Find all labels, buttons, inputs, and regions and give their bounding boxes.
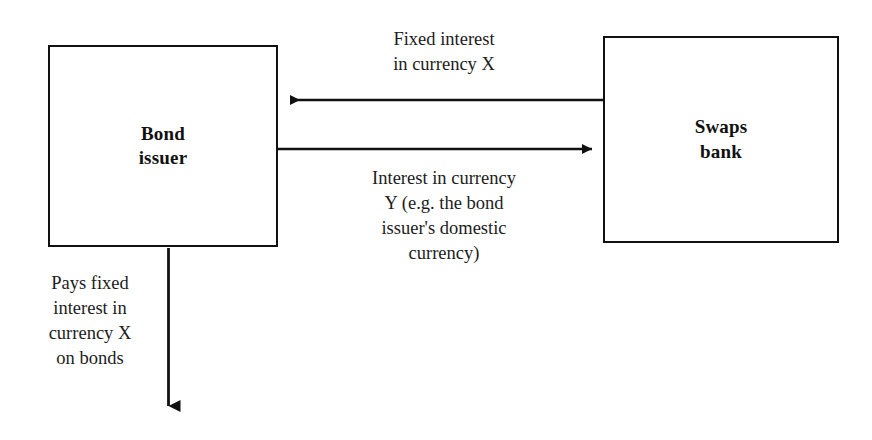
edge-label-pays-fixed-interest: Pays fixed interest in currency X on bon… <box>24 271 156 372</box>
diagram-canvas: Bond issuer Swaps bank Fixed interest in… <box>0 0 872 440</box>
edge-label-fixed-interest-x: Fixed interest in currency X <box>333 27 555 77</box>
node-swaps-bank-label: Swaps bank <box>695 115 748 164</box>
node-swaps-bank: Swaps bank <box>603 36 839 243</box>
edge-label-interest-currency-y: Interest in currency Y (e.g. the bond is… <box>328 166 560 267</box>
node-bond-issuer: Bond issuer <box>48 45 278 247</box>
node-bond-issuer-label: Bond issuer <box>139 122 188 171</box>
